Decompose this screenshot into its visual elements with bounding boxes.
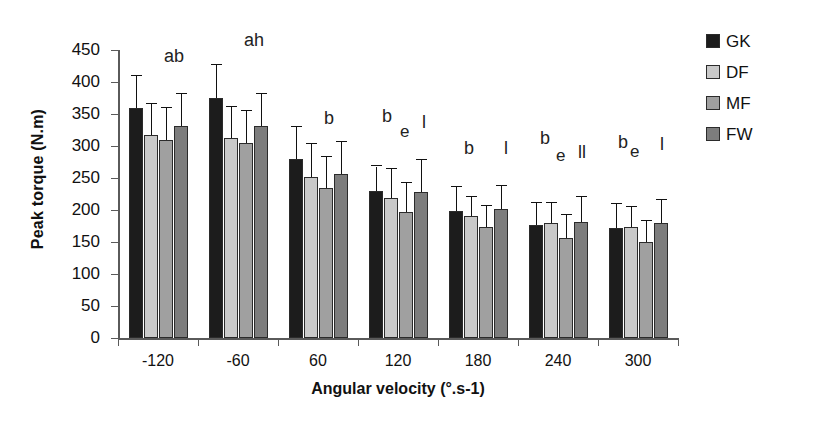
bar-mf xyxy=(399,212,413,338)
significance-label: b xyxy=(324,108,334,129)
error-bar xyxy=(391,169,392,198)
error-bar xyxy=(151,104,152,135)
error-bar-cap xyxy=(466,196,477,197)
bar-df xyxy=(624,227,638,338)
error-bar xyxy=(261,94,262,126)
error-bar xyxy=(216,65,217,98)
significance-label: e xyxy=(400,122,409,142)
x-axis-title: Angular velocity (°.s-1) xyxy=(118,380,678,398)
y-tick: 450 xyxy=(111,50,118,51)
bar-mf xyxy=(479,227,493,338)
y-tick-label: 100 xyxy=(40,264,100,284)
legend-swatch-icon xyxy=(706,127,720,141)
bar-group xyxy=(529,50,588,338)
error-bar-cap xyxy=(241,110,252,111)
error-bar xyxy=(246,111,247,143)
error-bar-cap xyxy=(306,143,317,144)
x-tick xyxy=(278,338,279,346)
x-tick xyxy=(358,338,359,346)
significance-label: b xyxy=(540,128,550,149)
legend-item-fw[interactable]: FW xyxy=(706,121,816,147)
error-bar-cap xyxy=(336,141,347,142)
y-tick-label: 400 xyxy=(40,72,100,92)
y-tick-label: 300 xyxy=(40,136,100,156)
bar-fw xyxy=(334,174,348,338)
legend-swatch-icon xyxy=(706,65,720,79)
y-tick: 250 xyxy=(111,178,118,179)
legend-item-label: GK xyxy=(726,33,751,50)
error-bar xyxy=(646,221,647,242)
bar-group xyxy=(609,50,668,338)
error-bar-cap xyxy=(611,203,622,204)
error-bar xyxy=(471,197,472,217)
error-bar xyxy=(326,157,327,188)
plot-area: 050100150200250300350400450 -120-6060120… xyxy=(118,50,678,338)
error-bar xyxy=(566,215,567,238)
x-tick xyxy=(438,338,439,346)
y-tick: 350 xyxy=(111,114,118,115)
error-bar-cap xyxy=(161,107,172,108)
x-tick-label: 120 xyxy=(385,352,412,370)
significance-label: ab xyxy=(164,46,184,67)
significance-label: b xyxy=(618,132,628,153)
error-bar-cap xyxy=(131,75,142,76)
error-bar-cap xyxy=(321,156,332,157)
legend-item-label: MF xyxy=(726,95,751,112)
bar-group xyxy=(129,50,188,338)
bar-gk xyxy=(369,191,383,338)
x-tick xyxy=(678,338,679,346)
error-bar xyxy=(311,144,312,177)
significance-label: ah xyxy=(244,30,264,51)
error-bar xyxy=(456,187,457,211)
bar-fw xyxy=(574,222,588,338)
bar-df xyxy=(464,216,478,338)
bar-gk xyxy=(289,159,303,338)
y-tick: 400 xyxy=(111,82,118,83)
bar-fw xyxy=(174,126,188,338)
significance-label: l xyxy=(660,134,664,155)
legend-swatch-icon xyxy=(706,34,720,48)
y-tick-label: 250 xyxy=(40,168,100,188)
legend-item-label: DF xyxy=(726,64,749,81)
legend-item-label: FW xyxy=(726,126,752,143)
bar-gk xyxy=(209,98,223,338)
error-bar xyxy=(421,160,422,192)
bar-group xyxy=(369,50,428,338)
bar-group xyxy=(449,50,508,338)
bar-fw xyxy=(494,209,508,338)
error-bar xyxy=(486,206,487,227)
error-bar-cap xyxy=(626,206,637,207)
legend-item-df[interactable]: DF xyxy=(706,59,816,85)
error-bar-cap xyxy=(211,64,222,65)
bar-df xyxy=(384,198,398,338)
error-bar-cap xyxy=(371,165,382,166)
error-bar xyxy=(376,167,377,191)
error-bar-cap xyxy=(641,220,652,221)
error-bar-cap xyxy=(546,202,557,203)
bar-gk xyxy=(129,108,143,338)
error-bar-cap xyxy=(291,126,302,127)
error-bar-cap xyxy=(561,214,572,215)
error-bar xyxy=(616,204,617,228)
error-bar-cap xyxy=(576,196,587,197)
error-bar xyxy=(661,200,662,224)
error-bar xyxy=(166,108,167,140)
legend-item-mf[interactable]: MF xyxy=(706,90,816,116)
bar-group xyxy=(289,50,348,338)
error-bar-cap xyxy=(416,159,427,160)
x-tick-label: -120 xyxy=(142,352,174,370)
bar-group xyxy=(209,50,268,338)
significance-label: ll xyxy=(578,142,586,163)
error-bar xyxy=(551,203,552,223)
error-bar xyxy=(501,186,502,209)
error-bar-cap xyxy=(146,103,157,104)
x-tick-label: 60 xyxy=(309,352,327,370)
bar-fw xyxy=(414,192,428,338)
y-tick: 150 xyxy=(111,242,118,243)
bar-mf xyxy=(639,242,653,338)
y-tick-label: 0 xyxy=(40,328,100,348)
y-tick: 200 xyxy=(111,210,118,211)
legend-item-gk[interactable]: GK xyxy=(706,28,816,54)
bar-mf xyxy=(559,238,573,338)
x-axis-line xyxy=(118,338,679,340)
